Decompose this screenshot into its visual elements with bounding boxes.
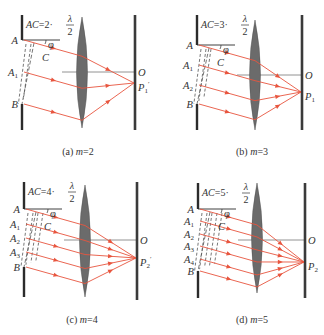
p-prime: ′ (148, 80, 150, 88)
phi-label: φ (50, 208, 56, 219)
point-label: A2 (9, 233, 20, 246)
p-prime: ′ (150, 255, 152, 263)
caption-prefix: (b) (236, 146, 250, 158)
eq-denominator: 2 (68, 26, 73, 37)
point-label: B (188, 266, 195, 277)
p-subscript: 2 (146, 262, 150, 270)
path-difference-equation: AC=2· (25, 19, 53, 30)
arrow-head-icon (108, 262, 113, 266)
arrow-head-icon (275, 104, 280, 108)
point-label: A1 (182, 60, 193, 73)
point-subscript: 2 (17, 238, 21, 246)
panel-caption: (b) m=3 (236, 146, 268, 158)
point-label: A1 (9, 219, 20, 232)
eq-numerator: λ (67, 13, 73, 24)
arrow-head-icon (275, 95, 280, 99)
convex-lens (77, 17, 88, 128)
path-difference-equation: AC=4· (27, 186, 55, 197)
caption-value: =3 (257, 146, 268, 157)
point-c-label: C (42, 52, 50, 63)
origin-o-label: O (138, 67, 146, 78)
point-label: B (187, 99, 194, 110)
eq-numerator: λ (242, 13, 248, 24)
focus-point-label: P1 (304, 91, 315, 104)
caption-m: m (250, 146, 257, 157)
caption-m: m (76, 146, 83, 157)
caption-prefix: (c) (66, 314, 80, 326)
single-slit-half-wave-zone-figure: AA1BφCOP1′AC=2·λ2(a) m=2AA1A2BφCOP1AC=3·… (0, 0, 324, 335)
point-label: A1 (7, 67, 18, 80)
angle-arc (47, 209, 48, 213)
point-label: A (13, 204, 21, 215)
arrow-head-icon (105, 100, 110, 105)
caption-prefix: (a) (62, 146, 76, 158)
panel-d: AA1A2A3A4BφCOP2AC=5·λ2(d) m=5 (183, 181, 318, 326)
eq-denominator: 2 (243, 26, 248, 37)
origin-o-label: O (140, 235, 148, 246)
eq-denominator: 2 (70, 193, 75, 204)
eq-coefficient: =3· (214, 19, 228, 30)
wavefront-line (198, 212, 210, 271)
focus-point-label: P1′ (137, 80, 150, 95)
point-subscript: 1 (17, 224, 21, 232)
point-c-label: C (217, 57, 225, 68)
caption-value: =2 (83, 146, 94, 157)
caption-m: m (80, 314, 87, 325)
arrow-head-icon (278, 260, 283, 264)
point-subscript: 1 (190, 65, 194, 73)
point-subscript: 1 (15, 72, 19, 80)
caption-m: m (250, 314, 257, 325)
arrow-head-icon (108, 239, 113, 244)
point-subscript: 2 (190, 85, 194, 93)
point-label: A (187, 204, 195, 215)
point-label: B (12, 99, 19, 110)
panel-c: AA1A2A3BφCOP2′AC=4·λ2(c) m=4 (9, 180, 152, 326)
phi-label: φ (223, 44, 229, 55)
convex-lens (250, 20, 261, 130)
point-label: A2 (182, 80, 193, 93)
arrow-head-icon (275, 73, 280, 78)
eq-lhs: AC (201, 187, 215, 198)
panels-group: AA1BφCOP1′AC=2·λ2(a) m=2AA1A2BφCOP1AC=3·… (7, 13, 318, 326)
caption-value: =4 (87, 314, 98, 325)
point-label: A3 (183, 241, 194, 254)
caption-value: =5 (257, 314, 268, 325)
p-subscript: 2 (314, 266, 318, 274)
eq-lhs: AC (25, 19, 39, 30)
p-subscript: 1 (311, 96, 315, 104)
convex-lens (80, 185, 91, 297)
panel-caption: (a) m=2 (62, 146, 93, 158)
path-difference-equation: AC=5· (201, 187, 229, 198)
point-subscript: 2 (191, 234, 195, 242)
phi-label: φ (48, 39, 54, 50)
point-label: A3 (9, 247, 20, 260)
origin-o-label: O (305, 70, 313, 81)
convex-lens (252, 183, 263, 293)
eq-coefficient: =4· (41, 186, 55, 197)
panel-caption: (d) m=5 (236, 314, 268, 326)
panel-a: AA1BφCOP1′AC=2·λ2(a) m=2 (7, 13, 150, 158)
panel-b: AA1A2BφCOP1AC=3·λ2(b) m=3 (182, 13, 315, 158)
eq-lhs: AC (200, 19, 214, 30)
angle-arc (220, 45, 221, 49)
eq-coefficient: =5· (215, 187, 229, 198)
point-subscript: 3 (17, 252, 21, 260)
eq-numerator: λ (243, 181, 249, 192)
point-label: A1 (183, 216, 194, 229)
wavefront-dash (18, 44, 26, 104)
point-subscript: 1 (191, 221, 195, 229)
point-label: B (14, 262, 21, 273)
arrow-head-icon (108, 254, 113, 258)
point-label: A (186, 40, 194, 51)
path-difference-equation: AC=3· (200, 19, 228, 30)
angle-arc (45, 40, 46, 44)
p-subscript: 1 (144, 87, 148, 95)
eq-coefficient: =2· (39, 19, 53, 30)
panel-caption: (c) m=4 (66, 314, 97, 326)
caption-prefix: (d) (236, 314, 250, 326)
angle-arc (221, 209, 222, 213)
eq-numerator: λ (69, 180, 75, 191)
eq-denominator: 2 (244, 194, 249, 205)
arrow-head-icon (275, 84, 280, 88)
arrow-head-icon (108, 246, 113, 250)
